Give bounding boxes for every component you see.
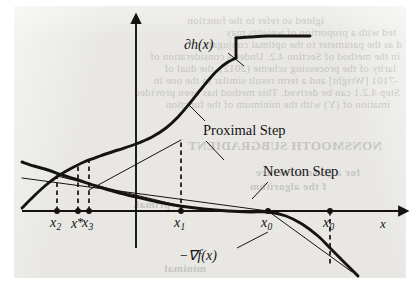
- curve-h-x-upper-branch: [236, 36, 310, 38]
- newton-step-label: Newton Step: [263, 163, 338, 180]
- curves: [22, 36, 358, 276]
- figure-root: ighted so refer to the functionted with …: [0, 0, 420, 299]
- newton-step-label-leader: [252, 182, 268, 199]
- gradient-label-leader: [237, 232, 268, 248]
- proximal-step-label-leader: [188, 104, 205, 121]
- axis-tick-label-x2: x2: [50, 215, 61, 232]
- subgradient-curve-label: ∂h(x): [184, 37, 213, 53]
- proximal-step-label: Proximal Step: [203, 122, 286, 139]
- axis-dot-5: [327, 208, 333, 214]
- annotation-leader-lines: [188, 53, 268, 248]
- curve-proximal-secant-1: [57, 176, 181, 206]
- axis-tick-label-x0hat: xˆ0: [261, 215, 272, 232]
- x-axis-label: x: [380, 216, 386, 232]
- negative-gradient-curve-label: −∇f(x): [179, 247, 217, 264]
- axis-dot-1: [75, 208, 81, 214]
- proximal-step-label-leader: [206, 141, 224, 160]
- axis-tick-label-x1: x1: [174, 215, 185, 232]
- axis-tick-label-x3: x3: [82, 215, 93, 232]
- axis-dot-2: [86, 208, 92, 214]
- axis-dot-0: [54, 208, 60, 214]
- axis-dot-3: [178, 208, 184, 214]
- axis-dot-4: [265, 208, 271, 214]
- axis-tick-label-x0: x0: [323, 215, 334, 232]
- curve-proximal-secant-2: [89, 140, 181, 190]
